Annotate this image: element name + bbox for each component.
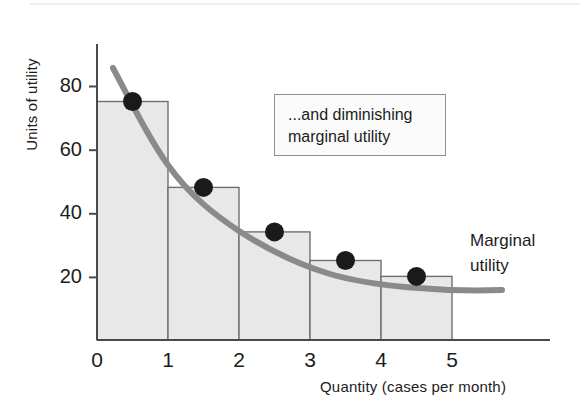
- data-point-1: [194, 178, 213, 197]
- x-tick-label-4: 4: [367, 348, 395, 372]
- x-tick-label-2: 2: [225, 348, 253, 372]
- data-point-4: [407, 267, 426, 286]
- x-axis-title: Quantity (cases per month): [320, 378, 506, 395]
- chart-figure: 80 60 40 20 0 1 2 3 4 5 Units of utility…: [0, 0, 586, 410]
- callout-box: ...and diminishing marginal utility: [274, 94, 446, 156]
- y-tick-label-60: 60: [44, 138, 82, 161]
- bar-2-3: [239, 232, 310, 340]
- bar-1-2: [168, 187, 239, 340]
- callout-line-2: marginal utility: [288, 126, 445, 148]
- series-label-line-1: Marginal: [470, 228, 580, 253]
- data-point-0: [123, 92, 142, 111]
- y-axis-title: Units of utility: [23, 50, 40, 160]
- y-tick-label-20: 20: [44, 265, 82, 288]
- series-label-line-2: utility: [470, 253, 580, 278]
- y-axis-ticks: [89, 87, 97, 278]
- x-tick-label-5: 5: [438, 348, 466, 372]
- callout-line-1: ...and diminishing: [288, 104, 445, 126]
- series-label-marginal-utility: Marginal utility: [470, 228, 580, 278]
- x-tick-label-3: 3: [296, 348, 324, 372]
- x-tick-label-1: 1: [154, 348, 182, 372]
- data-point-3: [336, 251, 355, 270]
- y-tick-label-80: 80: [44, 74, 82, 97]
- bar-0-1: [97, 102, 168, 341]
- x-tick-label-0: 0: [83, 348, 111, 372]
- data-point-2: [265, 222, 284, 241]
- y-tick-label-40: 40: [44, 201, 82, 224]
